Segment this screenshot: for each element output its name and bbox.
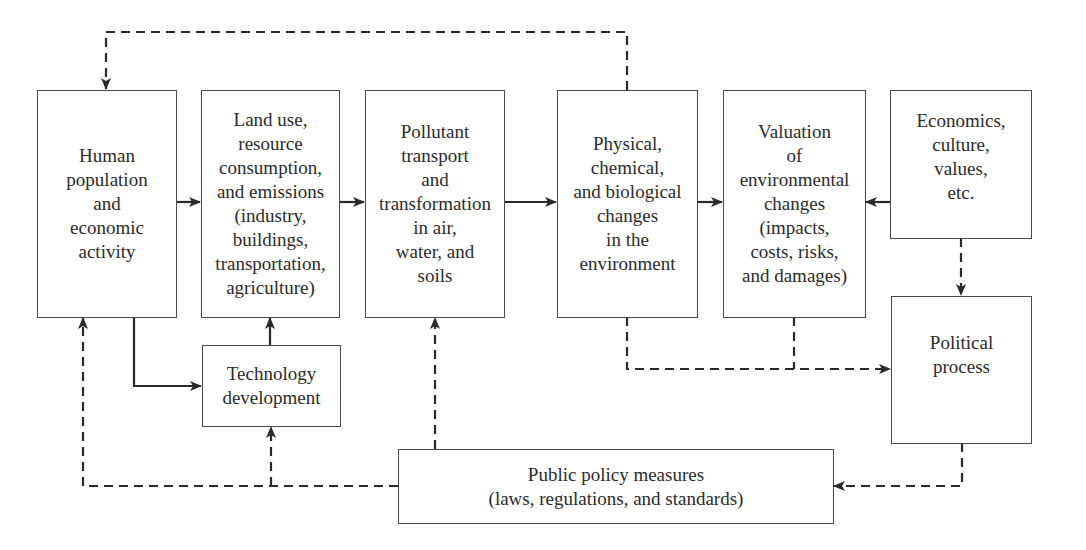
arrow-human-to-technology <box>134 317 201 386</box>
node-label: Economics, culture, values, etc. <box>916 109 1005 205</box>
arrow-physical-to-human <box>106 32 627 90</box>
node-label: Pollutant transport and transformation i… <box>379 120 491 288</box>
node-label: Human population and economic activity <box>66 144 147 264</box>
arrow-physical-valuation-to-political <box>627 317 890 369</box>
node-label: Physical, chemical, and biological chang… <box>573 132 681 276</box>
node-technology-development: Technology development <box>202 345 341 427</box>
node-label: Political process <box>930 331 993 379</box>
arrow-political-to-policy <box>834 443 962 486</box>
node-pollutant-transport: Pollutant transport and transformation i… <box>365 90 505 318</box>
node-public-policy: Public policy measures (laws, regulation… <box>398 449 834 524</box>
node-label: Public policy measures (laws, regulation… <box>489 463 744 511</box>
node-valuation: Valuation of environmental changes (impa… <box>723 90 866 318</box>
diagram-canvas: Human population and economic activity L… <box>0 0 1086 550</box>
node-environmental-changes: Physical, chemical, and biological chang… <box>557 90 698 318</box>
node-economics-culture: Economics, culture, values, etc. <box>890 90 1032 239</box>
node-label: Valuation of environmental changes (impa… <box>740 120 850 288</box>
node-political-process: Political process <box>891 296 1032 444</box>
node-label: Land use, resource consumption, and emis… <box>215 108 325 300</box>
node-human-population: Human population and economic activity <box>37 90 177 318</box>
node-land-use: Land use, resource consumption, and emis… <box>201 90 340 318</box>
node-label: Technology development <box>222 362 320 410</box>
